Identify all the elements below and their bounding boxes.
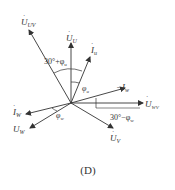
dot-u-uv: · (23, 12, 25, 20)
arc-phi-u (71, 82, 79, 83)
figure-caption: (D) (80, 164, 96, 177)
label-angle-phi-u: φu (82, 84, 89, 94)
vector-i-u (71, 57, 90, 103)
label-angle-30-plus-phi-u: 30°+φu (44, 57, 67, 67)
arc-30-plus-phi-u (54, 69, 82, 73)
vector-u-v (71, 103, 113, 128)
label-angle-phi-w: φw (56, 111, 64, 121)
dot-i-u: · (91, 40, 93, 48)
dot-u-wv: · (146, 93, 148, 101)
phasor-diagram: UUV · UU · Iu · −Iw UWV · UV · IW · UW 3… (0, 0, 175, 190)
vector-i-w (26, 103, 71, 114)
label-neg-i-w: −Iw (116, 82, 129, 93)
dot-u-v: · (112, 128, 114, 136)
dot-i-w: · (13, 102, 15, 110)
vector-u-w (30, 103, 71, 128)
label-angle-30-minus-phi-w: 30°−φw (110, 113, 134, 123)
label-u-w: UW (13, 124, 26, 135)
dot-u-u: · (68, 28, 70, 36)
